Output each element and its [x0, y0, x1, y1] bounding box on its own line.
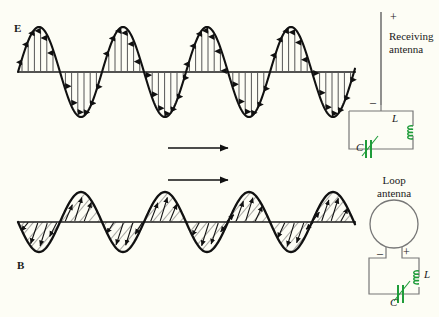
diagram-canvas: [0, 0, 439, 317]
capacitor-icon-top: [362, 136, 378, 158]
loop-antenna-label: Loop antenna: [377, 174, 411, 200]
receiving-antenna-label: Receiving antenna: [389, 30, 434, 56]
polarity-plus-top-label: +: [390, 10, 397, 25]
receiving-antenna-label-line1: Receiving: [389, 30, 434, 43]
propagation-arrows: [168, 148, 228, 180]
e-field-label: E: [14, 22, 21, 34]
inductor-label-bottom: L: [424, 268, 430, 280]
b-field-label: B: [17, 259, 24, 271]
loop-antenna-ring: [370, 200, 418, 248]
capacitor-label-bottom: C: [390, 296, 397, 308]
b-field-hatching: [0, 170, 380, 280]
b-field-wave-group: [0, 170, 380, 280]
inductor-icon-top: [408, 126, 413, 139]
polarity-minus-loop-label: –: [377, 246, 383, 261]
loop-antenna-label-line1: Loop: [377, 174, 411, 187]
polarity-plus-loop-label: +: [403, 245, 410, 260]
e-field-wave-group: [18, 27, 356, 117]
loop-antenna-label-line2: antenna: [377, 187, 411, 200]
polarity-minus-top-label: –: [370, 95, 376, 110]
capacitor-label-top: C: [356, 141, 363, 153]
em-wave-antenna-diagram: [0, 0, 439, 317]
loop-antenna-circuit-loop: [369, 268, 419, 294]
receiving-antenna-label-line2: antenna: [389, 43, 434, 56]
inductor-label-top: L: [392, 112, 398, 124]
inductor-icon-bottom: [414, 271, 419, 284]
